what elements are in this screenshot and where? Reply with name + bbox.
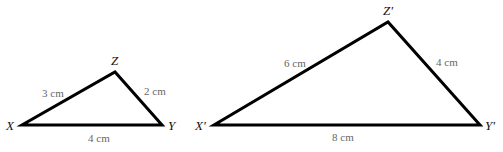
side-xy-prime-length: 8 cm bbox=[332, 131, 354, 143]
vertex-x-label: X bbox=[5, 118, 15, 133]
side-xy-length: 4 cm bbox=[88, 132, 110, 144]
vertex-y-prime-label: Y′ bbox=[485, 118, 495, 133]
side-xz-length: 3 cm bbox=[42, 87, 64, 99]
vertex-x-prime-label: X′ bbox=[194, 118, 206, 133]
triangle-xyz-prime-shape bbox=[214, 22, 480, 125]
side-zy-length: 2 cm bbox=[144, 85, 166, 97]
side-xz-prime-length: 6 cm bbox=[284, 57, 306, 69]
similar-triangles-diagram: X Y Z 3 cm 2 cm 4 cm X′ Y′ Z′ 6 cm 4 cm … bbox=[0, 0, 503, 152]
vertex-z-label: Z bbox=[111, 53, 119, 68]
vertex-z-prime-label: Z′ bbox=[383, 3, 393, 18]
triangle-xyz: X Y Z 3 cm 2 cm 4 cm bbox=[5, 53, 177, 144]
triangle-xyz-prime: X′ Y′ Z′ 6 cm 4 cm 8 cm bbox=[194, 3, 495, 143]
vertex-y-label: Y bbox=[168, 118, 177, 133]
side-zy-prime-length: 4 cm bbox=[436, 56, 458, 68]
